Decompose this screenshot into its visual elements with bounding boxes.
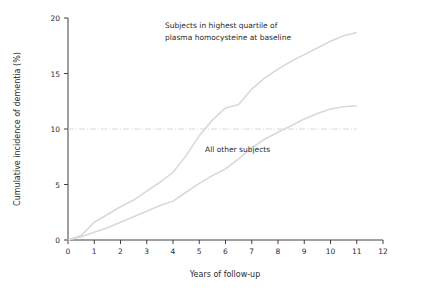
x-tick-7: 7 — [249, 247, 254, 256]
y-tick-0: 0 — [55, 236, 60, 245]
x-tick-8: 8 — [276, 247, 281, 256]
x-axis-ticks: 0 1 2 3 4 5 6 7 8 9 10 11 12 — [66, 240, 388, 256]
highest-quartile-label-line1: Subjects in highest quartile of — [165, 21, 278, 30]
highest-quartile-label: Subjects in highest quartile of plasma h… — [165, 21, 291, 42]
x-tick-4: 4 — [171, 247, 176, 256]
all-other-subjects-label-line1: All other subjects — [205, 145, 270, 154]
x-tick-1: 1 — [92, 247, 97, 256]
x-tick-2: 2 — [118, 247, 123, 256]
y-tick-20: 20 — [50, 14, 60, 23]
y-tick-15: 15 — [50, 70, 60, 79]
x-tick-6: 6 — [223, 247, 228, 256]
highest-quartile-label-line2: plasma homocysteine at baseline — [165, 33, 291, 42]
series-line-highest-quartile — [68, 32, 357, 240]
chart-plot: 0 5 10 15 20 0 1 2 3 4 5 6 — [0, 0, 427, 291]
x-tick-5: 5 — [197, 247, 202, 256]
x-tick-10: 10 — [326, 247, 336, 256]
x-tick-3: 3 — [144, 247, 149, 256]
chart-container: 0 5 10 15 20 0 1 2 3 4 5 6 — [0, 0, 427, 291]
y-tick-5: 5 — [55, 181, 60, 190]
all-other-subjects-label: All other subjects — [205, 145, 270, 154]
series-line-all-other-subjects — [68, 106, 357, 240]
x-tick-12: 12 — [378, 247, 388, 256]
x-tick-9: 9 — [302, 247, 307, 256]
y-axis-title: Cumulative incidence of dementia (%) — [13, 52, 22, 206]
y-axis-ticks: 0 5 10 15 20 — [50, 14, 68, 245]
y-tick-10: 10 — [50, 125, 60, 134]
x-tick-0: 0 — [66, 247, 71, 256]
x-axis-title: Years of follow-up — [189, 270, 261, 279]
x-tick-11: 11 — [352, 247, 362, 256]
